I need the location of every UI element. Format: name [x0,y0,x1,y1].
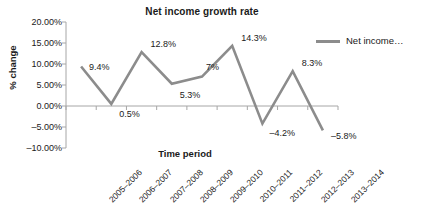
legend-line-swatch-icon [316,40,340,43]
chart-legend: Net income… [316,36,404,46]
net-income-growth-rate-chart: Net income growth rate % change 20.00%15… [0,0,421,222]
legend-label: Net income… [346,36,404,46]
x-axis-tick-labels: 2005–20062006–20072007–20082008–20092009… [0,0,421,222]
x-axis-title: Time period [120,148,250,159]
